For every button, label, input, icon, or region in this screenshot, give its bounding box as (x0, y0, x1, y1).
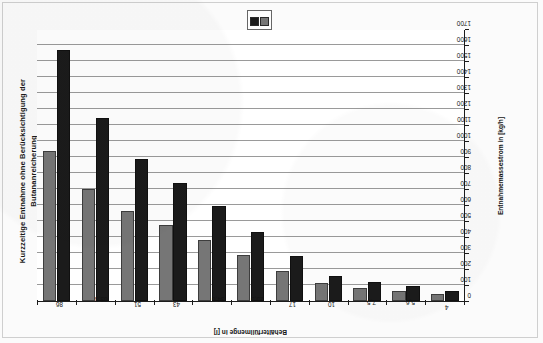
category-axis-tick (154, 300, 155, 305)
value-axis-tick (465, 173, 469, 174)
value-axis-tick (465, 61, 469, 62)
value-axis-tick-label: 400 (460, 228, 471, 235)
chart-legend[interactable] (247, 10, 272, 30)
value-axis-tick-label: 700 (460, 180, 471, 187)
chart-figure: Kurzzeitige Entnahme ohne Berücksichtigu… (0, 0, 543, 343)
value-axis-tick-label: 600 (460, 196, 471, 203)
value-axis-tick-label: 800 (460, 164, 471, 171)
category-axis-tick (76, 300, 77, 305)
category-axis-tick (192, 300, 193, 305)
bar-series-2-category-51 (121, 211, 134, 301)
bar-series-2-category-25,5 (237, 255, 250, 301)
value-axis-tick-label: 500 (460, 212, 471, 219)
value-axis-tick (465, 29, 469, 30)
category-axis-tick (231, 300, 232, 305)
value-axis-tick (465, 205, 469, 206)
bar-series-1-category-17 (290, 256, 303, 301)
category-axis-tick-label: 7,5 (367, 299, 376, 306)
value-axis-tick (465, 93, 469, 94)
bar-series-1-category-51 (135, 159, 148, 301)
value-axis-tick-label: 200 (460, 260, 471, 267)
category-axis-tick-label: 25,5 (251, 296, 263, 303)
value-axis-tick (465, 285, 469, 286)
value-axis-tick-label: 1700 (457, 20, 471, 27)
category-axis-tick-label: 5,6 (406, 299, 415, 306)
value-axis: 1700160015001400130012001100100090080070… (464, 30, 465, 302)
value-axis-tick (465, 237, 469, 238)
category-axis-tick (309, 300, 310, 305)
bar-series-1-category-7,5 (368, 282, 381, 301)
bar-series-2-category-43 (159, 225, 172, 301)
category-axis-tick (115, 300, 116, 305)
value-axis-tick (465, 157, 469, 158)
gridline (37, 44, 464, 45)
value-axis-tick-label: 1100 (457, 116, 471, 123)
bar-series-1-category-43 (173, 183, 186, 301)
value-axis-tick (465, 253, 469, 254)
value-axis-tick (465, 221, 469, 222)
value-axis-tick (465, 45, 469, 46)
chart-title: Kurzzeitige Entnahme ohne Berücksichtigu… (17, 6, 39, 336)
value-axis-tick-label: 1600 (457, 36, 471, 43)
value-axis-tick (465, 269, 469, 270)
bar-series-2-category-4 (431, 294, 444, 301)
bar-series-2-category-86 (43, 151, 56, 301)
value-axis-tick-label: 1000 (457, 132, 471, 139)
bar-series-2-category-7,5 (353, 288, 366, 301)
gridline (37, 92, 464, 93)
value-axis-tick-label: 0 (467, 292, 471, 299)
value-axis-tick-label: 300 (460, 244, 471, 251)
category-axis-title: Behälterfüllmenge in [l] (37, 326, 464, 338)
rotated-chart-canvas: Kurzzeitige Entnahme ohne Berücksichtigu… (11, 6, 531, 336)
bar-series-1-category-4 (445, 291, 458, 301)
value-axis-tick-label: 1300 (457, 84, 471, 91)
plot-inner (37, 30, 464, 301)
legend-entry-series-2[interactable] (260, 14, 269, 26)
value-axis-tick (465, 109, 469, 110)
bar-series-2-category-5,6 (392, 291, 405, 301)
category-axis-tick-label: 86 (56, 301, 63, 308)
category-axis-tick (37, 300, 38, 305)
bar-series-2-category-10 (315, 283, 328, 301)
category-axis-tick-label: 34,6 (212, 296, 224, 303)
legend-entry-series-1[interactable] (250, 14, 259, 26)
value-axis-tick-label: 1400 (457, 68, 471, 75)
value-axis-tick-label: 1200 (457, 100, 471, 107)
value-axis-title: Entnahmemassestrom in [kg/h] (497, 30, 504, 302)
category-axis-tick (348, 300, 349, 305)
value-axis-tick (465, 189, 469, 190)
gridline (37, 60, 464, 61)
bar-series-1-category-25,5 (251, 232, 264, 301)
category-axis-tick (425, 300, 426, 305)
bar-series-1-category-10 (329, 276, 342, 301)
bar-series-1-category-63,8 (96, 118, 109, 301)
value-axis-tick-label: 1500 (457, 52, 471, 59)
category-axis-tick (386, 300, 387, 305)
legend-swatch-series-2-icon (260, 17, 269, 26)
bar-series-1-category-34,6 (212, 206, 225, 301)
chart-title-line-1: Kurzzeitige Entnahme ohne Berücksichtigu… (17, 6, 28, 336)
bar-series-2-category-34,6 (198, 240, 211, 301)
value-axis-tick (465, 77, 469, 78)
category-axis-tick-label: 43 (173, 301, 180, 308)
category-axis-tick (270, 300, 271, 305)
value-axis-tick (465, 301, 469, 302)
gridline (37, 76, 464, 77)
gridline (37, 108, 464, 109)
value-axis-tick (465, 125, 469, 126)
category-axis-tick-label: 4 (445, 304, 449, 311)
bar-series-2-category-17 (276, 271, 289, 301)
category-axis-tick-label: 17 (289, 301, 296, 308)
category-axis-tick-label: 51 (134, 301, 141, 308)
category-axis-tick-label: 10 (328, 301, 335, 308)
legend-swatch-series-1-icon (250, 17, 259, 26)
value-axis-tick (465, 141, 469, 142)
bar-series-1-category-86 (57, 50, 70, 301)
bar-series-2-category-63,8 (82, 189, 95, 301)
plot-area: 8663,8514334,625,517107,55,64 (37, 30, 464, 302)
value-axis-tick-label: 100 (460, 276, 471, 283)
category-axis-tick-label: 63,8 (95, 296, 107, 303)
value-axis-tick-label: 900 (460, 148, 471, 155)
